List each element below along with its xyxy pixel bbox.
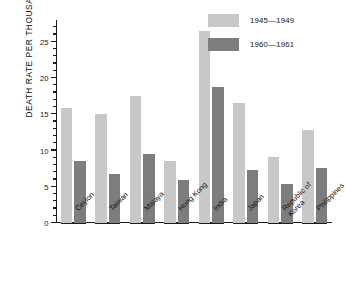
y-axis-title: DEATH RATE PER THOUSAND (24, 0, 34, 146)
legend-item: 1945—1949 (208, 14, 294, 27)
group-baseline (164, 223, 189, 225)
y-tick-label: 0 (44, 219, 48, 228)
group-baseline (233, 223, 258, 225)
legend-swatch-1945-1949 (208, 14, 239, 27)
bar-group (61, 20, 86, 223)
bar-1945-1949 (164, 161, 176, 223)
bar-group (130, 20, 155, 223)
legend: 1945—1949 1960—1961 (208, 14, 294, 62)
group-baseline (61, 223, 86, 225)
group-baseline (302, 223, 327, 225)
bar-1945-1949 (302, 130, 314, 223)
y-tick-label: 5 (44, 182, 48, 191)
group-baseline (95, 223, 120, 225)
bar-1945-1949 (130, 96, 142, 223)
group-baseline (130, 223, 155, 225)
group-baseline (199, 223, 224, 225)
bar-group (95, 20, 120, 223)
y-tick-label: 10 (40, 146, 48, 155)
bar-1945-1949 (61, 108, 73, 223)
y-tick-label: 15 (40, 110, 48, 119)
bar-1945-1949 (268, 157, 280, 223)
legend-label-1960-1961: 1960—1961 (250, 40, 294, 49)
legend-swatch-1960-1961 (208, 38, 239, 51)
y-tick-label: 25 (40, 37, 48, 46)
legend-label-1945-1949: 1945—1949 (250, 16, 294, 25)
bar-1945-1949 (233, 103, 245, 223)
group-baseline (268, 223, 293, 225)
bar-1945-1949 (95, 114, 107, 223)
bar-group (164, 20, 189, 223)
bar-1960-1961 (74, 161, 86, 223)
legend-item: 1960—1961 (208, 38, 294, 51)
y-tick-label: 20 (40, 74, 48, 83)
